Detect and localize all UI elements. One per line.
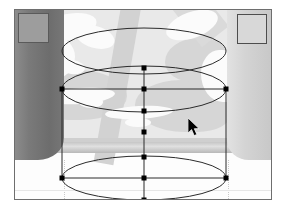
handle-bounds-bottom-left[interactable] (60, 176, 65, 181)
handle-bounds-top-right[interactable] (224, 87, 229, 92)
handle-bounds-top-center[interactable] (142, 87, 147, 92)
cylinder-wireframe[interactable] (15, 10, 272, 200)
handle-bottom-ellipse-top[interactable] (142, 155, 147, 160)
handle-bounds-bottom-right[interactable] (224, 176, 229, 181)
handle-bottom-ellipse-bottom[interactable] (142, 198, 147, 201)
canvas-frame[interactable] (14, 9, 272, 200)
handle-top-ellipse-bottom[interactable] (142, 66, 147, 71)
handle-middle-ellipse-bottom[interactable] (142, 109, 147, 114)
handle-bounds-top-left[interactable] (60, 87, 65, 92)
handle-axis-midpoint[interactable] (142, 130, 147, 135)
screenshot-root (0, 0, 286, 214)
handle-bounds-bottom-center[interactable] (142, 176, 147, 181)
